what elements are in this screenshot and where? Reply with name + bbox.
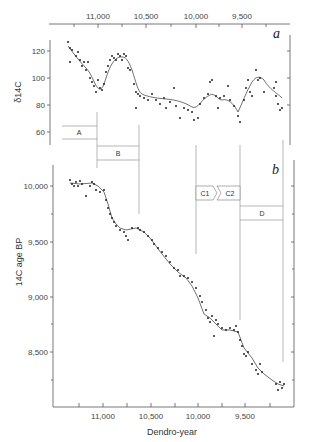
zone-b-label: B [116, 150, 121, 157]
top-x-ticks [74, 24, 266, 28]
zone-c2: C2 [217, 186, 240, 200]
zone-b: B [97, 125, 139, 214]
b-y-tick-9500: 9,500 [28, 238, 49, 247]
b-y-ticks [50, 186, 53, 380]
b-y-axis-label: 14C age BP [14, 238, 24, 287]
zone-c1: C1 [196, 186, 217, 200]
a-y-tick-60: 60 [36, 128, 45, 137]
b-y-tick-10000: 10,000 [24, 182, 49, 191]
zone-c1-label: C1 [201, 190, 210, 197]
a-data-points [67, 41, 283, 123]
bottom-x-tick-10000: 10,000 [186, 412, 211, 421]
a-y-axis-label: δ14C [13, 81, 23, 103]
zone-a-label: A [77, 129, 82, 136]
top-x-tick-10000: 10,000 [184, 12, 209, 21]
a-smoothed-curve [68, 46, 282, 112]
panel-a: 11,000 10,500 10,000 9,500 120 100 80 60… [13, 12, 290, 214]
panel-b-letter: b [272, 162, 279, 177]
bottom-x-tick-9500: 9,500 [235, 412, 256, 421]
zone-d-label: D [259, 210, 264, 217]
a-y-tick-80: 80 [36, 101, 45, 110]
bottom-x-tick-10500: 10,500 [139, 412, 164, 421]
zone-a: A [62, 112, 97, 168]
x-axis-label: Dendro-year [147, 427, 197, 437]
zone-d: D [240, 206, 283, 220]
bottom-x-tick-11000: 11,000 [91, 412, 115, 421]
b-y-tick-8500: 8,500 [28, 348, 49, 357]
top-x-tick-10500: 10,500 [134, 12, 159, 21]
zone-c2-label: C2 [226, 190, 235, 197]
top-x-tick-11000: 11,000 [86, 12, 110, 21]
top-x-tick-9500: 9,500 [232, 12, 253, 21]
panel-b: 10,000 9,500 9,000 8,500 14C age BP 11,0… [14, 140, 294, 437]
b-y-tick-9000: 9,000 [28, 293, 49, 302]
a-y-tick-100: 100 [32, 74, 46, 83]
a-y-tick-120: 120 [32, 47, 46, 56]
panel-a-letter: a [273, 26, 280, 41]
b-smoothed-curve [70, 183, 284, 386]
bottom-x-ticks [79, 403, 270, 407]
figure: 11,000 10,500 10,000 9,500 120 100 80 60… [0, 0, 309, 442]
